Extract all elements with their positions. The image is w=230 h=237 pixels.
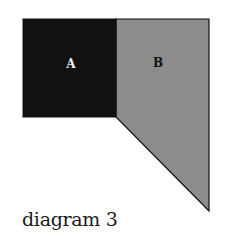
shape-b-label: B xyxy=(153,56,163,70)
shape-b xyxy=(116,19,209,211)
diagram-canvas: A B xyxy=(0,0,230,237)
shape-a-label: A xyxy=(65,57,76,71)
diagram-caption: diagram 3 xyxy=(22,208,118,230)
